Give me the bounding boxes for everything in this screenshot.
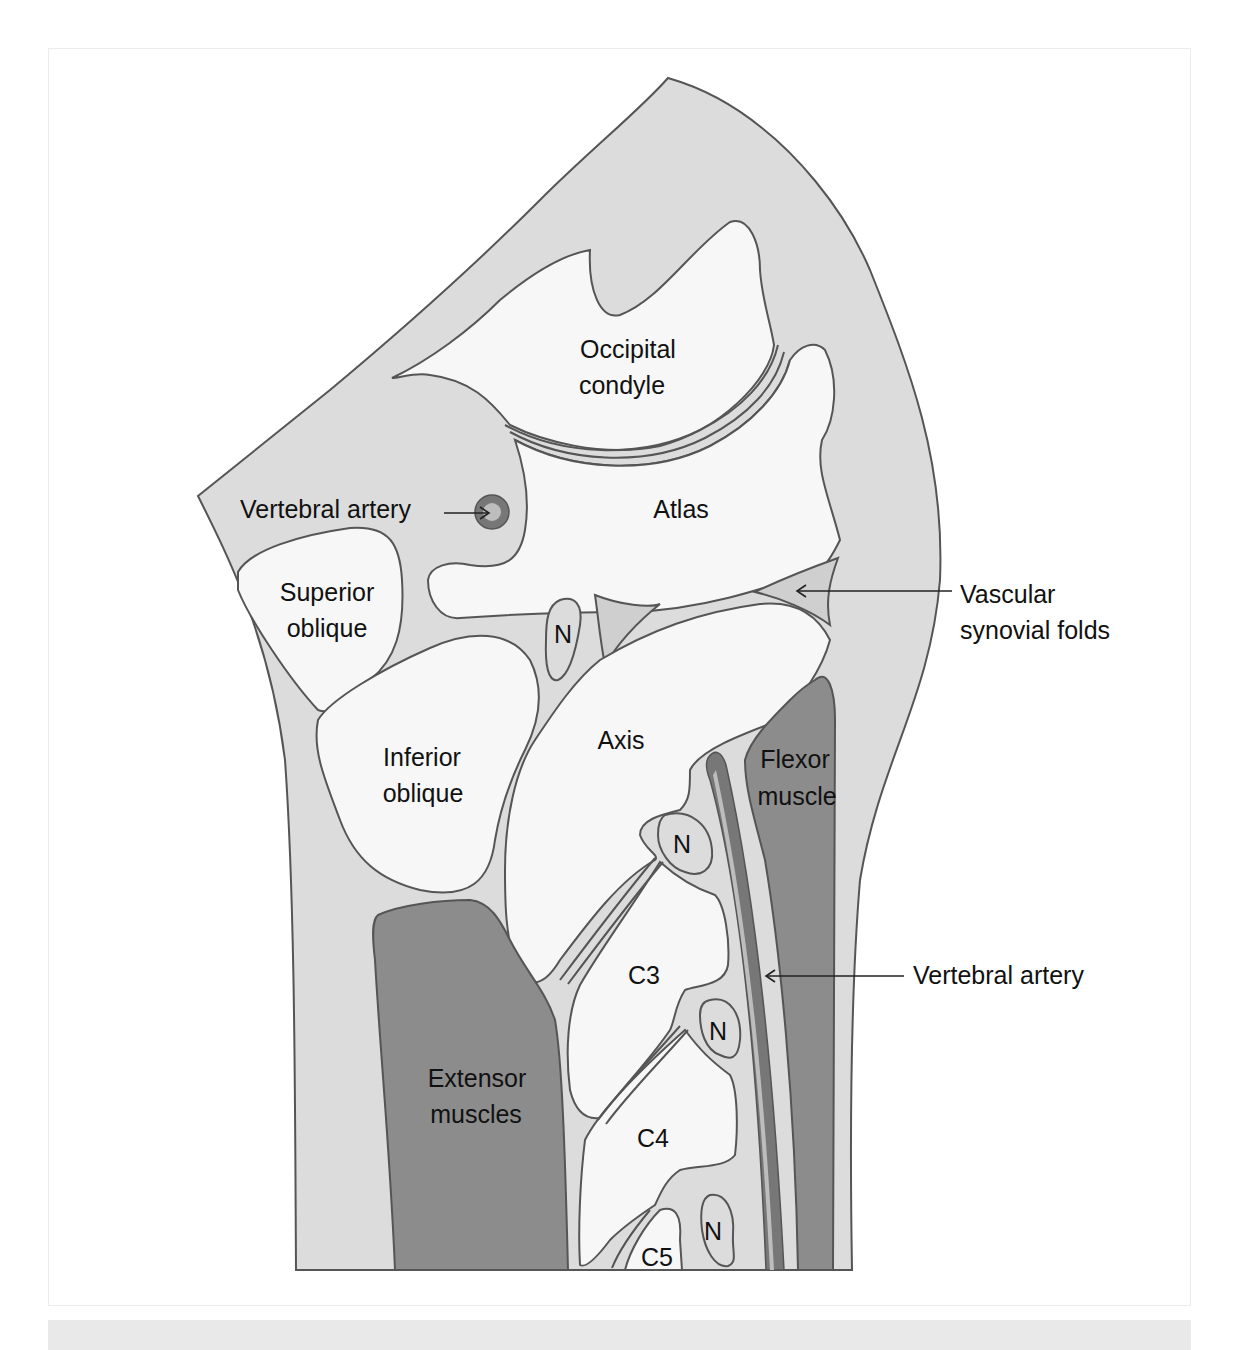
label-vertebral-artery-right: Vertebral artery (913, 961, 1084, 989)
label-c5: C5 (641, 1243, 673, 1271)
label-inferior-oblique-line1: Inferior (383, 743, 461, 771)
label-vascular-synovial-folds-line2: synovial folds (960, 616, 1110, 644)
label-nerve-4: N (704, 1217, 722, 1245)
label-c4: C4 (637, 1124, 669, 1152)
label-vertebral-artery-top: Vertebral artery (240, 495, 411, 523)
label-extensor-muscles-line1: Extensor (428, 1064, 527, 1092)
label-nerve-1: N (554, 620, 572, 648)
label-inferior-oblique-line2: oblique (383, 779, 464, 807)
label-nerve-2: N (673, 830, 691, 858)
label-atlas: Atlas (653, 495, 709, 523)
label-superior-oblique-line1: Superior (280, 578, 375, 606)
label-vascular-synovial-folds-line1: Vascular (960, 580, 1055, 608)
label-occipital-condyle-line2: condyle (579, 371, 665, 399)
label-superior-oblique-line2: oblique (287, 614, 368, 642)
label-c3: C3 (628, 961, 660, 989)
label-nerve-3: N (709, 1017, 727, 1045)
label-occipital-condyle-line1: Occipital (580, 335, 676, 363)
label-extensor-muscles-line2: muscles (430, 1100, 522, 1128)
label-axis: Axis (597, 726, 644, 754)
cervical-spine-diagram: Occipital condyle Atlas Vertebral artery… (0, 0, 1240, 1350)
label-flexor-muscle-line2: muscle (757, 782, 836, 810)
label-flexor-muscle-line1: Flexor (760, 745, 829, 773)
